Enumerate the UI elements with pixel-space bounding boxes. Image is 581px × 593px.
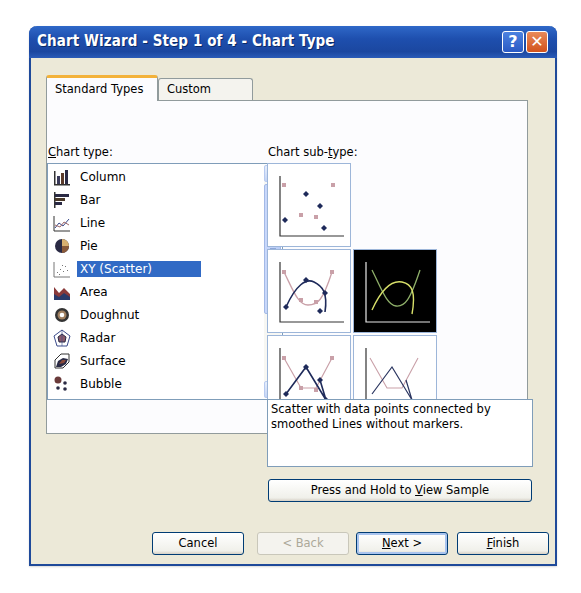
scatter-markers-icon	[268, 164, 352, 248]
help-icon: ?	[508, 32, 517, 51]
bubble-chart-icon	[53, 375, 71, 393]
chart-subtype-label: Chart sub-type:	[268, 145, 358, 159]
close-icon: ✕	[530, 32, 543, 51]
pie-chart-icon	[53, 237, 71, 255]
line-chart-icon	[53, 214, 71, 232]
close-button[interactable]: ✕	[526, 31, 548, 53]
subtype-smoothed-lines-markers[interactable]	[267, 249, 351, 333]
radar-chart-icon	[53, 329, 71, 347]
chart-type-label: Chart type:	[48, 145, 113, 159]
view-sample-button[interactable]: Press and Hold to View Sample	[268, 479, 532, 502]
help-button[interactable]: ?	[502, 31, 524, 53]
next-button[interactable]: Next >	[356, 532, 448, 555]
window-title: Chart Wizard - Step 1 of 4 - Chart Type	[37, 32, 335, 50]
list-item-column[interactable]: Column	[50, 165, 250, 188]
subtype-smoothed-lines-no-markers[interactable]	[353, 249, 437, 333]
list-item-radar[interactable]: Radar	[50, 326, 250, 349]
subtype-description: Scatter with data points connected by sm…	[267, 399, 533, 467]
smoothed-no-markers-icon	[354, 250, 438, 334]
finish-button[interactable]: Finish	[457, 532, 549, 555]
column-chart-icon	[53, 168, 71, 186]
tab-standard-types[interactable]: Standard Types	[46, 75, 158, 101]
list-item-xy-scatter[interactable]: XY (Scatter)	[50, 257, 250, 280]
doughnut-chart-icon	[53, 306, 71, 324]
area-chart-icon	[53, 283, 71, 301]
list-item-bubble[interactable]: Bubble	[50, 372, 250, 395]
back-button[interactable]: < Back	[257, 532, 349, 555]
scatter-chart-icon	[53, 260, 71, 278]
tab-custom-types[interactable]: Custom Types	[158, 78, 253, 100]
cancel-button[interactable]: Cancel	[152, 532, 244, 555]
subtype-scatter-markers-only[interactable]	[267, 163, 351, 247]
title-bar[interactable]: Chart Wizard - Step 1 of 4 - Chart Type …	[29, 26, 557, 58]
list-item-line[interactable]: Line	[50, 211, 250, 234]
list-item-area[interactable]: Area	[50, 280, 250, 303]
smoothed-markers-icon	[268, 250, 352, 334]
chart-type-listbox[interactable]: Column Bar Line Pie XY (Scatter) Area Do…	[47, 163, 283, 400]
list-item-pie[interactable]: Pie	[50, 234, 250, 257]
chart-wizard-dialog: Chart Wizard - Step 1 of 4 - Chart Type …	[29, 26, 557, 566]
list-item-bar[interactable]: Bar	[50, 188, 250, 211]
list-item-surface[interactable]: Surface	[50, 349, 250, 372]
bar-chart-icon	[53, 191, 71, 209]
list-item-doughnut[interactable]: Doughnut	[50, 303, 250, 326]
surface-chart-icon	[53, 352, 71, 370]
